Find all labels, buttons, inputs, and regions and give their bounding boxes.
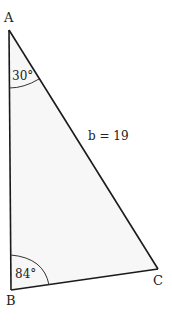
side-label-b: b = 19 — [88, 129, 129, 143]
vertex-label-a: A — [3, 10, 14, 25]
angle-label-a: 30° — [12, 69, 33, 83]
triangle-diagram: A B C 30° 84° b = 19 — [0, 0, 172, 324]
angle-label-b: 84° — [15, 267, 36, 281]
vertex-label-b: B — [6, 293, 16, 308]
vertex-label-c: C — [153, 273, 163, 288]
